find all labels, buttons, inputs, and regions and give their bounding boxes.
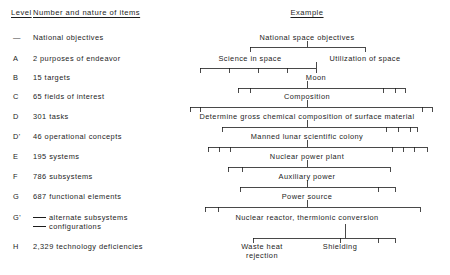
legend-dash-alternate-subsystems: [33, 217, 46, 218]
tree-node-manned-lunar-colony: Manned lunar scientific colony: [251, 133, 364, 140]
tree-node-auxiliary-power: Auxiliary power: [279, 173, 336, 180]
tree-node-power-source: Power source: [282, 193, 333, 200]
tree-node-waste-heat-rejection-line2: rejection: [246, 252, 278, 259]
level-label-g: 687 functional elements: [33, 193, 121, 200]
level-label-b: 15 targets: [33, 74, 70, 81]
level-code-e: E: [13, 153, 18, 160]
column-header-level: Level: [11, 9, 32, 17]
legend-label-alternate-subsystems: alternate subsystems: [49, 214, 128, 221]
level-code-a: A: [13, 55, 18, 62]
tree-node-waste-heat-rejection: Waste heat: [241, 243, 283, 250]
tree-node-nuclear-power-plant: Nuclear power plant: [270, 153, 344, 160]
level-code-g-prime: G': [13, 214, 21, 221]
level-code-c: C: [13, 93, 19, 100]
tree-node-utilization-of-space: Utilization of space: [329, 55, 400, 62]
column-header-example: Example: [290, 9, 323, 17]
level-label-d: 301 tasks: [33, 113, 69, 120]
legend-dash-configurations: [33, 226, 46, 227]
figure-root: Level Number and nature of items Example…: [0, 0, 450, 275]
level-label-h: 2,329 technology deficiencies: [33, 243, 143, 250]
level-code-b: B: [13, 74, 18, 81]
level-code-h: H: [13, 243, 19, 250]
level-code-g: G: [13, 193, 19, 200]
tree-node-shielding: Shielding: [323, 243, 357, 250]
level-code-f: F: [13, 173, 18, 180]
level-code-national: —: [13, 34, 21, 41]
level-label-c: 65 fields of interest: [33, 93, 104, 100]
tree-node-national-space-objectives: National space objectives: [259, 34, 354, 41]
level-code-d-prime: D': [13, 133, 21, 140]
level-label-f: 786 subsystems: [33, 173, 93, 180]
legend-label-configurations: configurations: [49, 223, 101, 230]
tree-node-moon: Moon: [306, 74, 326, 81]
column-header-items: Number and nature of items: [33, 9, 140, 17]
level-code-d: D: [13, 113, 19, 120]
tree-node-determine-composition: Determine gross chemical composition of …: [200, 113, 415, 120]
level-label-a: 2 purposes of endeavor: [33, 55, 121, 62]
tree-node-nuclear-reactor: Nuclear reactor, thermionic conversion: [235, 214, 378, 221]
level-label-d-prime: 46 operational concepts: [33, 133, 122, 140]
level-label-e: 195 systems: [33, 153, 79, 160]
tree-node-science-in-space: Science in space: [218, 55, 281, 62]
tree-node-composition: Composition: [284, 93, 330, 100]
level-label-national: National objectives: [33, 34, 104, 41]
